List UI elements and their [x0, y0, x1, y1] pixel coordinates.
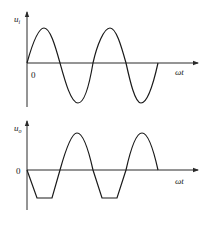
bottom-y-label: uo [14, 123, 22, 134]
output-clipped-curve [27, 133, 158, 198]
waveform-diagram: ui 0 ωt uo 0 ωt [0, 0, 209, 225]
top-y-label: ui [14, 14, 21, 25]
bottom-origin-label: 0 [16, 166, 21, 176]
top-x-label: ωt [175, 67, 184, 77]
top-origin-label: 0 [31, 70, 36, 80]
bottom-x-label: ωt [175, 176, 184, 186]
input-sine-curve [27, 28, 158, 103]
output-voltage-plot: uo 0 ωt [14, 121, 198, 210]
input-voltage-plot: ui 0 ωt [14, 12, 198, 107]
